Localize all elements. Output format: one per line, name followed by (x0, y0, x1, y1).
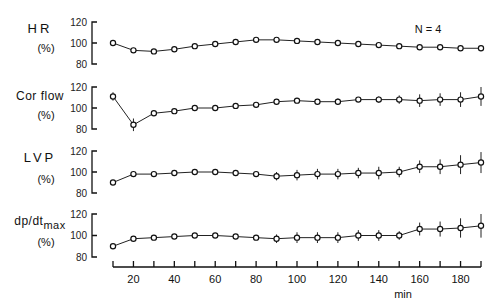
panel-label: HR (28, 21, 53, 36)
data-point (458, 46, 463, 51)
y-tick-label: 80 (76, 188, 88, 199)
data-point (458, 97, 463, 102)
data-point (417, 45, 422, 50)
x-tick-label: 160 (410, 273, 428, 285)
y-tick-label: 120 (70, 17, 87, 28)
data-point (397, 233, 402, 238)
y-axis (92, 214, 97, 257)
data-point (192, 169, 197, 174)
data-point (151, 172, 156, 177)
x-tick-label: 120 (329, 273, 347, 285)
data-point (335, 40, 340, 45)
data-point (315, 99, 320, 104)
x-tick-label: 100 (288, 273, 306, 285)
data-point (110, 180, 115, 185)
data-point (315, 39, 320, 44)
x-axis: 20406080100120140160180min (113, 261, 481, 300)
data-point (397, 44, 402, 49)
data-point (376, 233, 381, 238)
data-point (274, 99, 279, 104)
data-point (458, 225, 463, 230)
y-tick-label: 120 (70, 209, 87, 220)
data-point (356, 41, 361, 46)
data-point (131, 172, 136, 177)
sample-size-annotation: N = 4 (415, 23, 442, 35)
data-point (294, 98, 299, 103)
data-point (478, 46, 483, 51)
data-point (294, 173, 299, 178)
data-point (438, 226, 443, 231)
unit-label: (%) (37, 173, 54, 185)
data-point (192, 105, 197, 110)
x-tick-label: 180 (451, 273, 469, 285)
data-point (376, 43, 381, 48)
y-tick-label: 100 (70, 38, 87, 49)
data-point (438, 97, 443, 102)
y-axis (92, 22, 97, 64)
data-point (438, 164, 443, 169)
data-point (151, 111, 156, 116)
unit-label: (%) (37, 236, 54, 248)
data-point (274, 37, 279, 42)
data-point (417, 226, 422, 231)
data-point (213, 169, 218, 174)
data-point (397, 169, 402, 174)
y-axis (92, 151, 97, 193)
data-point (213, 105, 218, 110)
data-point (172, 170, 177, 175)
data-point (356, 97, 361, 102)
data-point (254, 235, 259, 240)
data-point (192, 233, 197, 238)
data-point (233, 39, 238, 44)
y-tick-label: 120 (70, 82, 87, 93)
data-point (294, 38, 299, 43)
data-point (110, 244, 115, 249)
panel-lvp: 12010080LVP(%) (24, 146, 484, 199)
data-point (438, 45, 443, 50)
x-tick-label: 20 (127, 273, 139, 285)
y-tick-label: 120 (70, 146, 87, 157)
data-point (478, 94, 483, 99)
unit-label: (%) (37, 42, 54, 54)
data-point (478, 223, 483, 228)
data-point (294, 235, 299, 240)
data-point (172, 234, 177, 239)
chart-canvas: 12010080HR(%)12010080Cor flow(%)12010080… (0, 0, 499, 307)
data-point (213, 233, 218, 238)
data-point (172, 109, 177, 114)
data-point (397, 97, 402, 102)
unit-label: (%) (37, 109, 54, 121)
panel-label: dp/dtmax (14, 214, 65, 231)
data-point (254, 172, 259, 177)
data-point (254, 102, 259, 107)
data-point (213, 41, 218, 46)
data-point (458, 162, 463, 167)
data-point (274, 236, 279, 241)
y-tick-label: 100 (70, 103, 87, 114)
data-point (192, 44, 197, 49)
data-point (356, 170, 361, 175)
data-point (478, 160, 483, 165)
panel-cor-flow: 12010080Cor flow(%) (16, 82, 484, 135)
data-point (356, 233, 361, 238)
data-point (274, 174, 279, 179)
data-point (335, 99, 340, 104)
data-point (315, 235, 320, 240)
data-point (151, 49, 156, 54)
data-point (233, 170, 238, 175)
y-tick-label: 100 (70, 167, 87, 178)
y-tick-label: 80 (76, 59, 88, 70)
panel-dp-dt: 12010080dp/dtmax(%) (14, 209, 483, 263)
x-tick-label: 80 (250, 273, 262, 285)
data-point (233, 103, 238, 108)
data-point (335, 172, 340, 177)
y-tick-label: 100 (70, 230, 87, 241)
data-point (131, 236, 136, 241)
data-point (417, 98, 422, 103)
x-tick-label: 140 (370, 273, 388, 285)
panel-label: Cor flow (16, 89, 64, 103)
panel-label: LVP (24, 150, 57, 165)
y-axis (92, 87, 97, 129)
data-point (376, 170, 381, 175)
x-axis-label: min (394, 288, 412, 300)
